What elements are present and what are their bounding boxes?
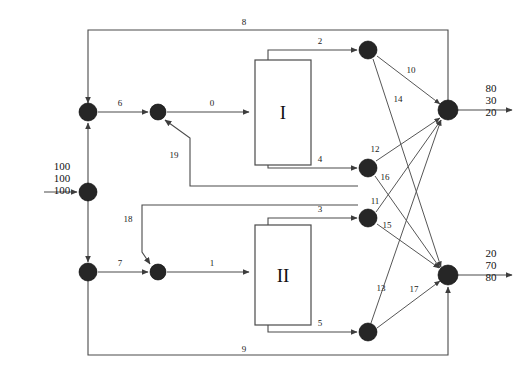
stream-label-17: 17 [410, 284, 420, 294]
node-mixer-bottom[interactable] [150, 264, 166, 280]
top-product-value-1: 80 [486, 82, 498, 94]
node-splitter-stream2[interactable] [359, 41, 377, 59]
node-splitter-stream3[interactable] [359, 209, 377, 227]
stream-label-13: 13 [377, 283, 387, 293]
node-mixer-top[interactable] [150, 104, 166, 120]
top-product-composition-values: 80 30 20 [486, 82, 498, 118]
stream-18-path [142, 205, 358, 264]
node-product-bottom[interactable] [438, 265, 458, 285]
node-splitter-stream5[interactable] [359, 323, 377, 341]
stream-14-path [373, 59, 441, 267]
node-split-bottom[interactable] [79, 263, 97, 281]
stream-label-19: 19 [170, 150, 180, 160]
stream-5-path [268, 325, 357, 332]
stream-label-1: 1 [210, 258, 215, 268]
stream-label-15: 15 [383, 220, 393, 230]
unit-I-label: I [280, 102, 286, 123]
feed-value-1: 100 [54, 160, 71, 172]
unit-II-label: II [277, 265, 290, 286]
bottom-product-value-3: 80 [486, 271, 498, 283]
stream-label-4: 4 [318, 154, 323, 164]
top-product-value-3: 20 [486, 106, 498, 118]
stream-label-9: 9 [242, 344, 247, 354]
feed-value-3: 100 [54, 184, 71, 196]
feed-composition-values: 100 100 100 [54, 160, 71, 196]
stream-label-16: 16 [381, 172, 391, 182]
top-product-value-2: 30 [486, 94, 498, 106]
stream-15-path [377, 224, 439, 268]
bottom-product-composition-values: 20 70 80 [486, 247, 498, 283]
stream-2-path [268, 50, 357, 60]
bottom-product-value-2: 70 [486, 259, 498, 271]
stream-label-5: 5 [318, 318, 323, 328]
node-splitter-stream4[interactable] [359, 159, 377, 177]
unit-box-I[interactable]: I [255, 60, 311, 165]
flowsheet-canvas: I II 0 1 2 3 4 5 6 7 8 9 10 11 12 13 14 … [0, 0, 525, 373]
stream-label-6: 6 [118, 98, 123, 108]
unit-box-II[interactable]: II [255, 225, 311, 325]
stream-label-14: 14 [394, 94, 404, 104]
node-product-top[interactable] [438, 100, 458, 120]
node-feed[interactable] [79, 183, 97, 201]
bottom-product-value-1: 20 [486, 247, 498, 259]
stream-label-10: 10 [407, 65, 417, 75]
stream-label-8: 8 [242, 17, 247, 27]
feed-value-2: 100 [54, 172, 71, 184]
stream-label-12: 12 [371, 144, 380, 154]
stream-11-path [376, 120, 441, 212]
stream-label-2: 2 [318, 36, 323, 46]
stream-10-path [377, 56, 440, 104]
stream-label-11: 11 [371, 196, 380, 206]
stream-label-18: 18 [124, 214, 134, 224]
stream-label-3: 3 [318, 204, 323, 214]
stream-12-path [376, 118, 440, 161]
stream-17-path [377, 281, 440, 328]
node-split-top[interactable] [79, 103, 97, 121]
stream-label-7: 7 [118, 258, 123, 268]
stream-label-0: 0 [210, 98, 215, 108]
process-flow-diagram: I II 0 1 2 3 4 5 6 7 8 9 10 11 12 13 14 … [0, 0, 525, 373]
stream-3-path [268, 218, 357, 225]
